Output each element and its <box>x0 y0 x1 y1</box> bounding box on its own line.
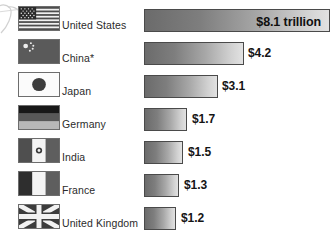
bar-container: $3.1 <box>0 72 335 105</box>
bar-container: $1.3 <box>0 171 335 204</box>
chart-row: Japan $3.1 <box>0 72 335 105</box>
value-bar <box>144 174 179 197</box>
value-label: $1.5 <box>188 145 211 159</box>
bar-container: $1.7 <box>0 105 335 138</box>
bar-chart: United States $8.1 trillion China* <box>0 0 335 241</box>
value-label: $8.1 trillion <box>256 15 321 29</box>
chart-row: United States $8.1 trillion <box>0 6 335 39</box>
value-bar: $8.1 trillion <box>144 9 330 32</box>
value-bar <box>144 108 187 131</box>
bar-container: $1.2 <box>0 204 335 237</box>
value-label: $1.3 <box>184 178 207 192</box>
value-label: $3.1 <box>222 79 245 93</box>
value-label: $1.2 <box>181 211 204 225</box>
value-bar <box>144 75 218 98</box>
chart-row: China* $4.2 <box>0 39 335 72</box>
chart-row: United Kingdom $1.2 <box>0 204 335 237</box>
bar-container: $8.1 trillion <box>0 6 335 39</box>
chart-row: France $1.3 <box>0 171 335 204</box>
chart-row: Germany $1.7 <box>0 105 335 138</box>
value-label: $1.7 <box>192 112 215 126</box>
bar-container: $1.5 <box>0 138 335 171</box>
chart-row: India $1.5 <box>0 138 335 171</box>
bar-container: $4.2 <box>0 39 335 72</box>
value-label: $4.2 <box>248 46 271 60</box>
value-bar <box>144 42 244 65</box>
value-bar <box>144 207 176 230</box>
value-bar <box>144 141 183 164</box>
